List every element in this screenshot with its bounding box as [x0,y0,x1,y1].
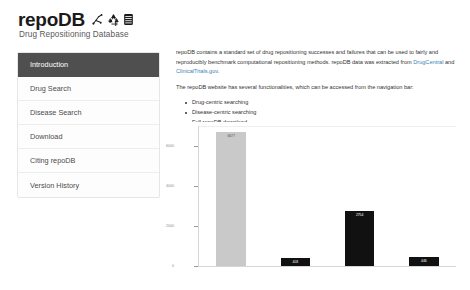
sidebar-item-version-history[interactable]: Version History [18,173,159,197]
bar[interactable]: 403 [281,126,311,266]
sidebar-item-citing-repodb[interactable]: Citing repoDB [18,149,159,173]
y-axis-tick-label: 0 [172,264,176,268]
sidebar-item-label: Citing repoDB [30,156,75,165]
y-axis-tick-label: 2000 [166,224,176,228]
y-axis-tick-label: 6000 [166,144,176,148]
intro-text-part1: repoDB contains a standard set of drug r… [176,49,438,65]
sidebar-item-label: Drug Search [30,84,71,93]
page-title: repoDB [18,10,85,29]
drugcentral-link[interactable]: DrugCentral [413,59,443,65]
y-axis-tick [194,186,198,187]
brand-icon-group [91,13,134,26]
list-item: Disease-centric searching [185,108,464,118]
list-item: Drug-centric searching [185,98,464,108]
functionalities-paragraph: The repoDB website has several functiona… [176,83,464,93]
bar-rect [345,211,375,266]
bar-value-label: 403 [281,260,311,264]
repodb-status-bar-chart[interactable]: 0200040006000 66774032754446 [176,122,466,288]
bar-value-label: 2754 [345,213,375,217]
sidebar-nav: Introduction Drug Search Disease Search … [17,52,160,198]
y-axis-tick [194,146,198,147]
molecule-icon [91,13,104,26]
bar-value-label: 446 [409,259,439,263]
sidebar-item-label: Disease Search [30,108,82,117]
sidebar-item-label: Version History [30,181,79,190]
sidebar-item-drug-search[interactable]: Drug Search [18,77,159,101]
bar-value-label: 6677 [216,134,246,138]
bar[interactable]: 6677 [216,126,246,266]
sidebar-item-introduction[interactable]: Introduction [18,53,159,77]
sidebar-item-disease-search[interactable]: Disease Search [18,101,159,125]
page-subtitle: Drug Repositioning Database [19,30,129,39]
brand: repoDB [18,10,134,29]
intro-paragraph: repoDB contains a standard set of drug r… [176,48,464,77]
bar-rect [216,132,246,266]
y-axis-tick-label: 4000 [166,184,176,188]
bar[interactable]: 446 [409,126,439,266]
sidebar-item-label: Introduction [30,60,68,69]
chart-inner: 0200040006000 66774032754446 [176,122,466,288]
y-axis-tick [194,226,198,227]
intro-text-part3: . [218,68,220,74]
y-axis-tick [194,266,198,267]
clinicaltrials-link[interactable]: ClinicalTrials.gov [176,68,218,74]
recycle-icon [107,13,120,26]
sidebar-item-label: Download [30,132,62,141]
bar[interactable]: 2754 [345,126,375,266]
page-header: repoDB [0,0,470,44]
bars-area: 66774032754446 [199,126,456,266]
intro-text-part2: and [443,59,454,65]
repodb-page: repoDB [0,0,470,290]
database-icon [123,13,134,26]
sidebar-item-download[interactable]: Download [18,125,159,149]
x-axis-line [198,266,456,267]
